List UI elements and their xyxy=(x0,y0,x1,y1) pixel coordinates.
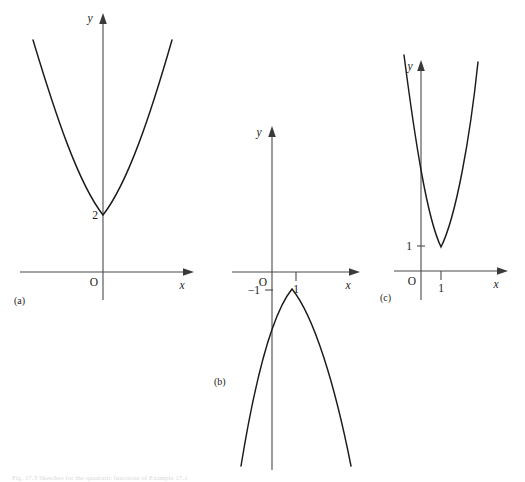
figure-canvas: y x O 2 (a) y x O 1 −1 (b) xyxy=(0,0,525,482)
panel-a-caption: (a) xyxy=(14,295,25,307)
panel-c-y-axis-label: y xyxy=(406,60,413,73)
panel-c: y x O 1 1 (c) xyxy=(380,55,508,304)
panel-a-y-intercept-label: 2 xyxy=(92,209,98,221)
panel-c-x-tick-label: 1 xyxy=(438,282,444,294)
panel-a-y-axis-label: y xyxy=(86,12,93,25)
panel-b-x-tick-label: 1 xyxy=(293,283,299,295)
panel-a-x-axis-label: x xyxy=(178,279,185,291)
panel-b: y x O 1 −1 (b) xyxy=(214,126,360,470)
panel-a-origin-label: O xyxy=(90,276,98,288)
panel-c-origin-label: O xyxy=(408,275,416,287)
panel-c-x-axis-label: x xyxy=(492,278,499,290)
panel-b-x-axis-label: x xyxy=(344,279,351,291)
panel-a: y x O 2 (a) xyxy=(14,12,194,307)
panel-b-caption: (b) xyxy=(214,376,226,388)
panel-a-y-axis-arrowhead xyxy=(99,13,107,24)
panel-c-parabola xyxy=(404,55,478,247)
panel-c-y-tick-label: 1 xyxy=(406,240,412,252)
panel-b-y-axis-label: y xyxy=(255,126,262,139)
panel-c-y-axis-arrowhead xyxy=(417,60,425,71)
panel-b-y-axis-arrowhead xyxy=(268,126,276,137)
panel-b-x-axis-arrowhead xyxy=(349,268,360,276)
figure-footer-caption: Fig. 17.3 Sketches for the quadratic fun… xyxy=(12,474,188,481)
panel-c-x-axis-arrowhead xyxy=(497,267,508,275)
panel-a-x-axis-arrowhead xyxy=(183,268,194,276)
panel-b-parabola xyxy=(241,289,351,466)
panel-c-caption: (c) xyxy=(380,292,391,304)
panel-b-y-intercept-label: −1 xyxy=(248,284,260,296)
